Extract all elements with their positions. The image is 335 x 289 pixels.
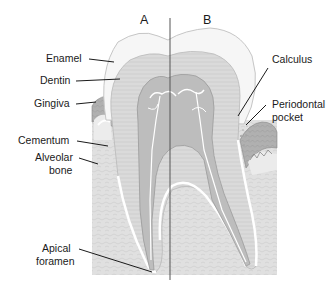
label-alveolar-bone-line2: bone — [49, 164, 73, 176]
side-label-a: A — [140, 13, 149, 27]
side-label-b: B — [203, 13, 211, 27]
label-periodontal-pocket-line2: pocket — [272, 111, 303, 123]
label-alveolar-bone-line1: Alveolar — [35, 151, 73, 163]
label-apical-foramen-line2: foramen — [36, 255, 75, 267]
label-apical-foramen-line1: Apical — [42, 242, 71, 254]
label-calculus: Calculus — [272, 53, 312, 65]
tooth-diagram: A B Enamel Dentin Gingiva Cementum Alveo… — [0, 0, 335, 289]
label-gingiva: Gingiva — [34, 97, 70, 109]
label-cementum: Cementum — [18, 134, 70, 146]
label-dentin: Dentin — [40, 74, 71, 86]
label-enamel: Enamel — [46, 52, 82, 64]
label-periodontal-pocket-line1: Periodontal — [272, 98, 325, 110]
